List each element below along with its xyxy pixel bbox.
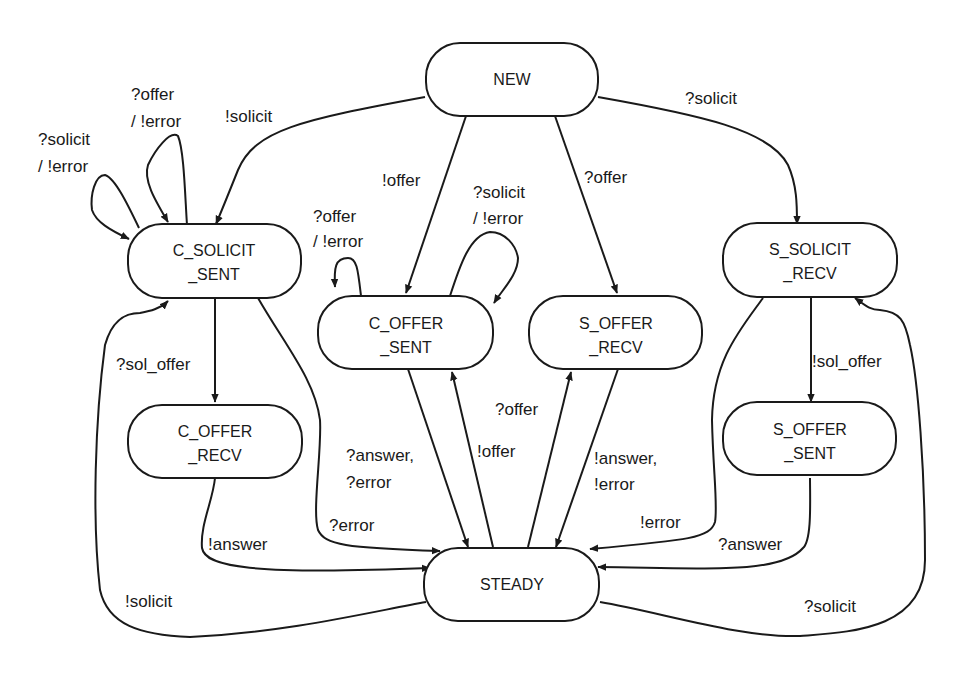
label-s-offer-recv-to-steady-1: !answer,	[594, 449, 657, 468]
state-label-line1: S_OFFER	[773, 421, 847, 439]
edge-c-solicit-self-offer	[147, 135, 187, 225]
state-s-offer-sent[interactable]: S_OFFER _SENT	[723, 402, 896, 475]
label-c-offer-sent-to-steady-2: ?error	[346, 473, 392, 492]
state-label-line1: C_OFFER	[369, 315, 444, 333]
state-steady[interactable]: STEADY	[424, 548, 599, 621]
state-label: STEADY	[480, 576, 544, 593]
state-diagram: NEW C_SOLICIT _SENT S_SOLICIT _RECV C_OF…	[0, 0, 963, 674]
label-c-offer-sent-self-offer-2: / !error	[313, 232, 363, 251]
label-s-solicit-recv-to-steady: !error	[640, 513, 681, 532]
label-new-to-c-offer-sent: !offer	[382, 171, 421, 190]
edge-c-offer-sent-self-solicit	[450, 232, 518, 303]
edge-c-offer-sent-self-offer	[335, 258, 361, 296]
state-label-line2: _SENT	[379, 339, 432, 357]
state-label-line1: S_SOLICIT	[769, 241, 851, 259]
label-steady-to-s-offer-recv: ?offer	[495, 400, 539, 419]
label-c-offer-sent-self-offer-1: ?offer	[313, 207, 357, 226]
edge-new-to-s-offer-recv	[555, 116, 617, 293]
label-c-solicit-self-solicit-2: / !error	[38, 157, 88, 176]
label-new-to-c-solicit-sent: !solicit	[225, 107, 273, 126]
state-c-offer-sent[interactable]: C_OFFER _SENT	[318, 296, 493, 369]
state-s-offer-recv[interactable]: S_OFFER _RECV	[529, 296, 702, 369]
edge-new-to-s-solicit-recv	[598, 97, 797, 224]
label-c-offer-sent-self-solicit-1: ?solicit	[473, 183, 525, 202]
state-label-line2: _SENT	[783, 445, 836, 463]
label-steady-to-c-offer-sent: !offer	[477, 442, 516, 461]
label-steady-to-c-solicit: !solicit	[125, 592, 173, 611]
state-c-solicit-sent[interactable]: C_SOLICIT _SENT	[128, 224, 301, 298]
label-steady-to-s-solicit-recv: ?solicit	[804, 597, 856, 616]
edge-c-offer-sent-to-steady	[408, 369, 468, 547]
label-s-offer-sent-to-steady: ?answer	[718, 535, 783, 554]
state-label-line2: _SENT	[187, 266, 240, 284]
state-label-line1: S_OFFER	[579, 315, 653, 333]
label-c-solicit-self-offer-2: / !error	[131, 112, 181, 131]
edge-new-to-c-offer-sent	[406, 116, 466, 293]
label-c-offer-sent-self-solicit-2: / !error	[473, 209, 523, 228]
label-c-offer-sent-to-steady-1: ?answer,	[346, 446, 414, 465]
label-c-solicit-to-steady: ?error	[329, 516, 375, 535]
label-new-to-s-solicit-recv: ?solicit	[685, 89, 737, 108]
label-s-solicit-recv-to-s-offer-sent: !sol_offer	[812, 352, 882, 371]
state-new[interactable]: NEW	[426, 43, 598, 116]
state-c-offer-recv[interactable]: C_OFFER _RECV	[128, 405, 302, 478]
state-label: NEW	[493, 71, 531, 88]
label-c-solicit-self-solicit-1: ?solicit	[38, 130, 90, 149]
state-label-line2: _RECV	[782, 265, 837, 283]
label-s-offer-recv-to-steady-2: !error	[594, 475, 635, 494]
state-label-line1: C_OFFER	[178, 423, 253, 441]
state-label-line2: _RECV	[187, 447, 242, 465]
state-s-solicit-recv[interactable]: S_SOLICIT _RECV	[723, 223, 897, 297]
label-new-to-s-offer-recv: ?offer	[584, 168, 628, 187]
label-c-offer-recv-to-steady: !answer	[208, 535, 268, 554]
state-label-line2: _RECV	[588, 339, 643, 357]
edge-c-solicit-self-solicit	[92, 175, 139, 239]
state-label-line1: C_SOLICIT	[173, 242, 256, 260]
label-c-solicit-to-c-offer-recv: ?sol_offer	[116, 355, 191, 374]
label-c-solicit-self-offer-1: ?offer	[131, 85, 175, 104]
